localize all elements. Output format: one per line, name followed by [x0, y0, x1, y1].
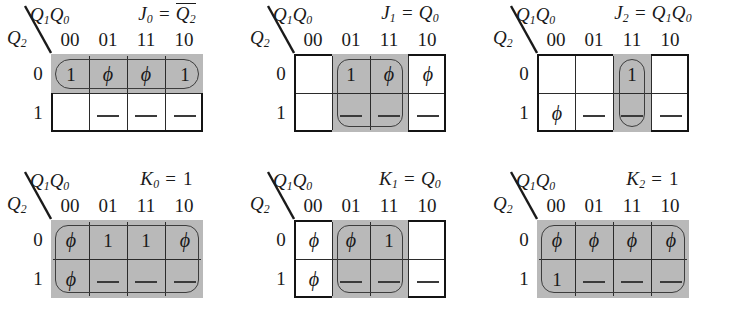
- kmap-corner-header-j1: Q1Q0Q2: [249, 2, 295, 54]
- column-header-01: 01: [89, 194, 127, 218]
- column-header-01: 01: [332, 194, 370, 218]
- kmap-cell-j1-r0-c0: [294, 54, 334, 95]
- column-header-10: 10: [408, 194, 446, 218]
- column-header-01: 01: [332, 28, 370, 52]
- column-header-10: 10: [165, 28, 203, 52]
- kmap-cell-k2-r1-c0: 1: [537, 259, 577, 300]
- cells-layer: 1ϕϕ: [296, 56, 444, 130]
- kmap-title-k0: K0 = 1: [92, 169, 242, 195]
- kmap-grid-j0: 1ϕϕ1: [51, 54, 203, 132]
- kmap-cell-j0-r0-c3: 1: [165, 54, 205, 95]
- row-label-0: 0: [514, 54, 534, 93]
- column-header-01: 01: [575, 28, 613, 52]
- kmap-k0: K0 = 1Q1Q0Q20001111001ϕ11ϕϕ: [6, 168, 236, 323]
- row-label-1: 1: [514, 259, 534, 298]
- column-header-00: 00: [294, 28, 332, 52]
- row-label-0: 0: [271, 220, 291, 259]
- kmap-cell-k1-r0-c2: 1: [370, 220, 408, 261]
- axis-top-label: Q1Q0: [516, 170, 555, 194]
- axis-top-label: Q1Q0: [273, 4, 312, 28]
- row-label-1: 1: [271, 93, 291, 132]
- kmap-grid-k1: ϕϕ1ϕ: [294, 220, 446, 298]
- axis-side-label: Q2: [493, 27, 513, 51]
- kmap-cell-k0-r1-c1: [89, 259, 127, 300]
- axis-top-label: Q1Q0: [30, 170, 69, 194]
- kmap-corner-header-k2: Q1Q0Q2: [492, 168, 538, 220]
- kmap-cell-k0-r1-c0: ϕ: [51, 259, 91, 300]
- kmap-title-k1: K1 = Q0: [335, 169, 485, 195]
- kmap-corner-header-j0: Q1Q0Q2: [6, 2, 52, 54]
- kmap-corner-header-k1: Q1Q0Q2: [249, 168, 295, 220]
- kmap-grid-j1: 1ϕϕ: [294, 54, 446, 132]
- column-header-10: 10: [408, 28, 446, 52]
- cells-layer: ϕϕ1ϕ: [296, 222, 444, 296]
- kmap-cell-j1-r0-c1: 1: [332, 54, 370, 95]
- kmap-cell-k2-r1-c3: [651, 259, 691, 300]
- column-header-00: 00: [294, 194, 332, 218]
- column-header-11: 11: [127, 28, 165, 52]
- kmap-cell-j0-r1-c1: [89, 93, 127, 134]
- kmap-cell-k2-r0-c0: ϕ: [537, 220, 577, 261]
- row-label-1: 1: [28, 93, 48, 132]
- kmap-cell-k2-r0-c3: ϕ: [651, 220, 691, 261]
- kmap-cell-k2-r0-c2: ϕ: [613, 220, 651, 261]
- row-label-0: 0: [271, 54, 291, 93]
- kmap-cell-j0-r0-c2: ϕ: [127, 54, 165, 95]
- column-header-00: 00: [537, 28, 575, 52]
- kmap-cell-k0-r0-c0: ϕ: [51, 220, 91, 261]
- axis-side-label: Q2: [7, 27, 27, 51]
- kmap-cell-j1-r0-c2: ϕ: [370, 54, 408, 95]
- kmap-cell-k1-r1-c0: ϕ: [294, 259, 334, 300]
- kmap-title-k2: K2 = 1: [578, 169, 728, 195]
- kmap-cell-k0-r0-c1: 1: [89, 220, 127, 261]
- kmap-cell-j2-r1-c3: [651, 93, 691, 134]
- axis-side-label: Q2: [250, 27, 270, 51]
- kmap-cell-j2-r1-c0: ϕ: [537, 93, 577, 134]
- row-label-0: 0: [28, 220, 48, 259]
- axis-side-label: Q2: [493, 193, 513, 217]
- kmap-grid-k2: ϕϕϕϕ1: [537, 220, 689, 298]
- kmap-cell-j2-r0-c2: 1: [613, 54, 651, 95]
- kmap-cell-j2-r1-c2: [613, 93, 651, 134]
- kmap-cell-j1-r0-c3: ϕ: [408, 54, 448, 95]
- kmap-cell-j0-r1-c3: [165, 93, 205, 134]
- kmap-cell-k2-r0-c1: ϕ: [575, 220, 613, 261]
- kmap-cell-j1-r1-c0: [294, 93, 334, 134]
- column-header-01: 01: [575, 194, 613, 218]
- column-header-10: 10: [165, 194, 203, 218]
- kmap-cell-j0-r0-c1: ϕ: [89, 54, 127, 95]
- row-label-0: 0: [514, 220, 534, 259]
- kmap-title-j2: J2 = Q1Q0: [578, 3, 728, 29]
- kmap-cell-k1-r1-c1: [332, 259, 370, 300]
- kmap-k1: K1 = Q0Q1Q0Q20001111001ϕϕ1ϕ: [249, 168, 479, 323]
- row-label-1: 1: [271, 259, 291, 298]
- kmap-cell-k0-r0-c2: 1: [127, 220, 165, 261]
- kmap-k2: K2 = 1Q1Q0Q20001111001ϕϕϕϕ1: [492, 168, 722, 323]
- kmap-cell-k0-r1-c3: [165, 259, 205, 300]
- column-header-11: 11: [613, 28, 651, 52]
- kmap-cell-j0-r1-c2: [127, 93, 165, 134]
- kmap-cell-j2-r0-c3: [651, 54, 691, 95]
- axis-top-label: Q1Q0: [516, 4, 555, 28]
- kmap-grid-k0: ϕ11ϕϕ: [51, 220, 203, 298]
- column-header-00: 00: [51, 194, 89, 218]
- column-header-10: 10: [651, 194, 689, 218]
- kmap-cell-j0-r0-c0: 1: [51, 54, 91, 95]
- row-label-0: 0: [28, 54, 48, 93]
- kmap-title-j1: J1 = Q0: [335, 3, 485, 29]
- column-header-11: 11: [370, 28, 408, 52]
- cells-layer: 1ϕ: [539, 56, 687, 130]
- row-label-1: 1: [28, 259, 48, 298]
- kmap-cell-k1-r0-c1: ϕ: [332, 220, 370, 261]
- kmap-cell-k0-r1-c2: [127, 259, 165, 300]
- column-header-01: 01: [89, 28, 127, 52]
- kmap-j2: J2 = Q1Q0Q1Q0Q200011110011ϕ: [492, 2, 722, 157]
- kmap-cell-j0-r1-c0: [51, 93, 91, 134]
- kmap-cell-k2-r1-c1: [575, 259, 613, 300]
- kmap-cell-j1-r1-c1: [332, 93, 370, 134]
- column-header-00: 00: [51, 28, 89, 52]
- kmap-cell-j2-r0-c1: [575, 54, 613, 95]
- kmap-cell-k1-r1-c2: [370, 259, 408, 300]
- column-header-10: 10: [651, 28, 689, 52]
- kmap-cell-j2-r1-c1: [575, 93, 613, 134]
